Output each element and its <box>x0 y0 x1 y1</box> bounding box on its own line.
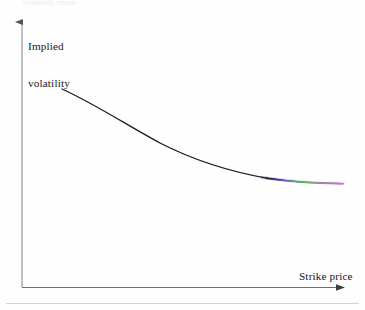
y-axis-label-line-2: volatility <box>28 77 98 89</box>
y-axis-label: Implied volatility <box>28 15 98 114</box>
volatility-curve-fringe-halo <box>262 178 344 184</box>
x-axis-label: Strike price <box>299 270 353 282</box>
figure-container: volatility smile <box>0 0 365 310</box>
y-axis-label-line-1: Implied <box>28 40 98 52</box>
volatility-curve <box>62 89 343 184</box>
